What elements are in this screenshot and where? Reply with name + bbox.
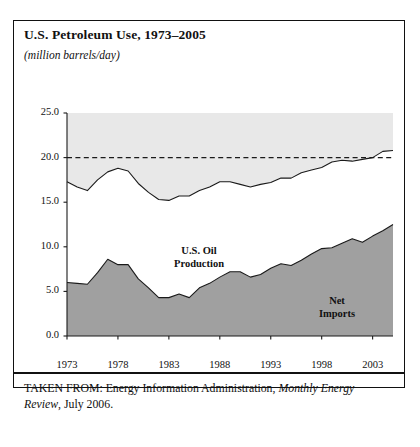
x-tick-label: 1978: [98, 359, 138, 370]
caption-suffix: , July 2006.: [58, 397, 113, 411]
series-label-oil-production: U.S. OilProduction: [144, 245, 254, 270]
x-tick-label: 1998: [302, 359, 342, 370]
y-tick-label: 0.0: [19, 329, 59, 340]
y-tick-label: 10.0: [19, 240, 59, 251]
chart-plot-area: 0.05.010.015.020.025.0 19731978198319881…: [14, 21, 406, 389]
caption-prefix: TAKEN FROM: Energy Information Administr…: [24, 381, 278, 395]
x-tick-label: 1983: [149, 359, 189, 370]
x-tick-label: 1988: [200, 359, 240, 370]
y-tick-label: 15.0: [19, 195, 59, 206]
y-tick-label: 20.0: [19, 151, 59, 162]
figure-frame: U.S. Petroleum Use, 1973–2005 (million b…: [13, 20, 405, 388]
series-label-net-imports: NetImports: [282, 295, 392, 320]
x-tick-label: 1993: [251, 359, 291, 370]
petroleum-area-chart: [14, 21, 406, 389]
x-tick-label: 1973: [47, 359, 87, 370]
x-tick-label: 2003: [353, 359, 393, 370]
y-tick-label: 25.0: [19, 106, 59, 117]
figure-caption: TAKEN FROM: Energy Information Administr…: [24, 381, 394, 412]
caption-divider: [14, 372, 404, 374]
consumption-gap-band: [67, 113, 393, 200]
y-tick-label: 5.0: [19, 284, 59, 295]
